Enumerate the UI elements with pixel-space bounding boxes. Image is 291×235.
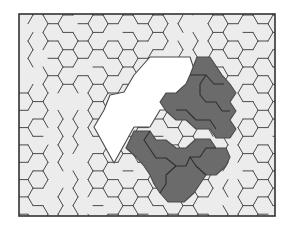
tile-edge [73,223,78,232]
tile-edge [13,15,18,24]
tile-edge [13,136,18,145]
tile-edge [118,223,123,232]
tile-edge [13,119,18,128]
tile-edge [58,223,63,232]
tiling-diagram [0,0,291,235]
tile-edge [43,223,48,232]
diagram-canvas [0,0,291,235]
tile-edge [13,32,18,41]
tile-edge [283,93,288,102]
tile-edge [208,223,213,232]
tile-edge [283,6,288,15]
tile-edge [283,180,288,189]
tile-edge [13,67,18,76]
tile-edge [148,223,153,232]
tile-edge [283,145,288,154]
tile-edge [28,223,33,232]
tile-edge [283,162,288,171]
tile-edge [163,223,168,232]
tile-edge [13,102,18,111]
tile-edge [13,50,18,59]
tile-edge [253,223,258,232]
tile-edge [103,223,108,232]
tile-edge [13,188,18,197]
tile-edge [238,223,243,232]
tile-edge [283,41,288,50]
tile-edge [13,154,18,163]
tile-edge [178,223,183,232]
tile-edge [268,223,273,232]
tile-edge [88,223,93,232]
tile-edge [283,214,288,223]
tile-edge [283,76,288,85]
tile-edge [13,206,18,215]
tile-edge [283,110,288,119]
tile-edge [283,24,288,33]
tile-edge [193,223,198,232]
